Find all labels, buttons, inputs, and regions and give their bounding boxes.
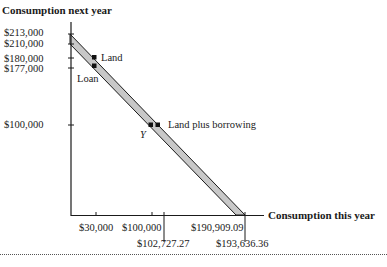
land-plus-borrowing-label: Land plus borrowing	[168, 119, 256, 130]
x-tick-100000: $100,000	[122, 222, 161, 233]
x-tick-193636: $193,636.36	[216, 238, 269, 249]
dotted-divider	[0, 254, 387, 255]
y-tick-100000: $100,000	[4, 119, 43, 130]
y-tick-177000: $177,000	[4, 63, 43, 74]
y-tick-210000: $210,000	[4, 38, 43, 49]
y-point	[149, 123, 154, 128]
x-tick-30000: $30,000	[79, 222, 113, 233]
x-tick-190909: $190,909.09	[191, 222, 244, 233]
loan-point	[92, 64, 97, 69]
y-tick-213000: $213,000	[4, 27, 43, 38]
y-point-label: Y	[140, 129, 146, 140]
land-label: Land	[101, 52, 123, 63]
x-tick-102727: $102,727.27	[137, 238, 190, 249]
land-point	[92, 55, 97, 60]
loan-label: Loan	[77, 73, 99, 84]
land-plus-borrowing-point	[156, 123, 161, 128]
x-axis-title: Consumption this year	[268, 209, 375, 221]
